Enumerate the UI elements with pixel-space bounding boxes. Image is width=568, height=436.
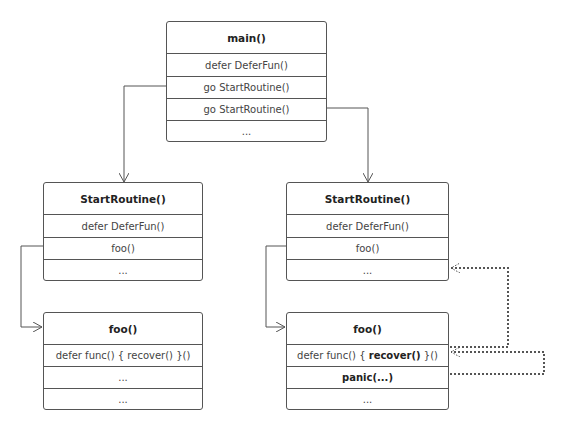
foo-right-box: foo() defer func() { recover() }() panic… — [286, 312, 449, 410]
start-right-row-foo: foo() — [287, 237, 448, 259]
foo-left-row-defer-recover: defer func() { recover() }() — [44, 344, 202, 366]
main-row-go-2: go StartRoutine() — [167, 98, 326, 120]
edge-start-right-to-foo-right — [266, 246, 286, 327]
edge-start-left-to-foo-left — [21, 246, 43, 327]
foo-left-row-ellipsis-1: ... — [44, 366, 202, 388]
start-left-row-defer: defer DeferFun() — [44, 214, 202, 237]
edge-main-to-start-right — [327, 108, 368, 182]
foo-left-row-ellipsis-2: ... — [44, 388, 202, 410]
start-left-row-foo: foo() — [44, 237, 202, 259]
foo-right-row-panic: panic(...) — [287, 366, 448, 388]
start-left-row-ellipsis: ... — [44, 259, 202, 281]
foo-left-title: foo() — [44, 313, 202, 344]
main-row-go-1: go StartRoutine() — [167, 76, 326, 98]
edge-panic-to-recover — [450, 352, 544, 374]
recover-call: recover() — [369, 350, 421, 361]
start-right-row-defer: defer DeferFun() — [287, 214, 448, 237]
main-title: main() — [167, 22, 326, 53]
recover-post: }() — [421, 350, 438, 361]
main-row-ellipsis: ... — [167, 120, 326, 142]
start-right-title: StartRoutine() — [287, 183, 448, 214]
recover-pre: defer func() { — [297, 350, 369, 361]
start-left-title: StartRoutine() — [44, 183, 202, 214]
start-routine-left-box: StartRoutine() defer DeferFun() foo() ..… — [43, 182, 203, 281]
edge-recover-to-start-right — [450, 268, 508, 347]
main-box: main() defer DeferFun() go StartRoutine(… — [166, 21, 327, 142]
start-right-row-ellipsis: ... — [287, 259, 448, 281]
foo-right-title: foo() — [287, 313, 448, 344]
foo-left-box: foo() defer func() { recover() }() ... .… — [43, 312, 203, 410]
foo-right-row-defer-recover: defer func() { recover() }() — [287, 344, 448, 366]
edge-main-to-start-left — [124, 86, 166, 182]
foo-right-row-ellipsis: ... — [287, 388, 448, 410]
main-row-defer: defer DeferFun() — [167, 53, 326, 76]
start-routine-right-box: StartRoutine() defer DeferFun() foo() ..… — [286, 182, 449, 281]
